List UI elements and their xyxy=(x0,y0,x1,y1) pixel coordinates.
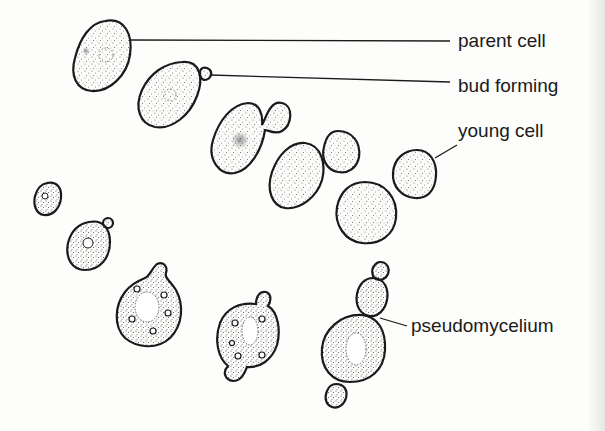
leader-line-bud-forming xyxy=(210,75,450,82)
pseudomycelium-chain xyxy=(322,262,389,408)
vacuolated-cell-2 xyxy=(217,292,279,381)
bud-forming-cell xyxy=(138,62,211,128)
vacuolated-cell-1 xyxy=(117,263,181,346)
label-bud-forming: bud forming xyxy=(458,76,558,95)
parent-cell xyxy=(73,20,130,91)
young-cell xyxy=(393,150,436,198)
label-pseudomycelium: pseudomycelium xyxy=(411,316,554,335)
label-parent-cell: parent cell xyxy=(458,31,546,50)
diagram-artwork xyxy=(0,0,605,431)
leader-line-pseudomycelium xyxy=(380,318,407,326)
leader-line-parent-cell xyxy=(130,40,450,41)
page-edge-shadow xyxy=(587,0,605,431)
label-young-cell: young cell xyxy=(458,121,544,140)
yeast-budding-diagram: parent cell bud forming young cell pseud… xyxy=(0,0,605,431)
cell-with-small-bud xyxy=(67,218,113,270)
small-cell xyxy=(34,183,61,215)
leader-line-young-cell xyxy=(435,145,457,158)
